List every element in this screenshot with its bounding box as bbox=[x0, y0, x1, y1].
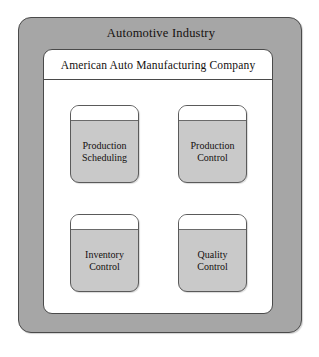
industry-frame: Automotive Industry American Auto Manufa… bbox=[18, 17, 302, 333]
function-box-label-line2: Control bbox=[89, 261, 120, 272]
function-box-label-line2: Control bbox=[197, 261, 228, 272]
function-box-production-control[interactable]: Production Control bbox=[178, 105, 247, 183]
industry-title: Automotive Industry bbox=[19, 26, 303, 41]
function-box-label-line1: Production bbox=[83, 140, 127, 151]
function-box-inventory-control[interactable]: Inventory Control bbox=[70, 214, 139, 292]
box-lid bbox=[70, 214, 139, 230]
diagram-canvas: Automotive Industry American Auto Manufa… bbox=[0, 0, 319, 357]
function-box-label: Quality Control bbox=[179, 231, 246, 291]
function-box-label: Production Scheduling bbox=[71, 122, 138, 182]
box-lid bbox=[70, 105, 139, 121]
function-box-label-line2: Scheduling bbox=[82, 152, 127, 163]
function-box-label-line1: Quality bbox=[198, 249, 228, 260]
function-box-label-line2: Control bbox=[197, 152, 228, 163]
box-lid bbox=[178, 105, 247, 121]
company-title: American Auto Manufacturing Company bbox=[61, 59, 256, 71]
company-box: American Auto Manufacturing Company Prod… bbox=[43, 49, 273, 314]
function-box-quality-control[interactable]: Quality Control bbox=[178, 214, 247, 292]
function-box-label-line1: Production bbox=[191, 140, 235, 151]
function-box-label: Inventory Control bbox=[71, 231, 138, 291]
function-box-label: Production Control bbox=[179, 122, 246, 182]
function-box-label-line1: Inventory bbox=[85, 249, 124, 260]
company-header: American Auto Manufacturing Company bbox=[44, 50, 272, 80]
function-box-grid: Production Scheduling Production Control bbox=[44, 81, 272, 313]
box-lid bbox=[178, 214, 247, 230]
function-box-production-scheduling[interactable]: Production Scheduling bbox=[70, 105, 139, 183]
